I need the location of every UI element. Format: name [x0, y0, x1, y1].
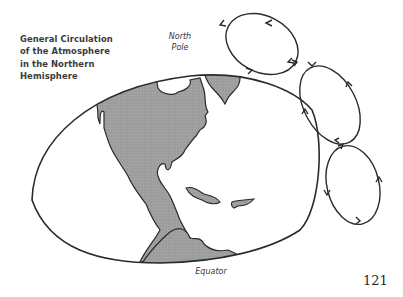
mid-latitude-cell-loop: [287, 56, 372, 155]
circulation-cells: [215, 1, 388, 230]
arctic-island: [172, 60, 190, 73]
polar-arrow-icon: [246, 68, 252, 74]
tropical-cell-loop: [318, 140, 388, 230]
land-masses: [92, 60, 254, 266]
circulation-diagram: [0, 0, 403, 297]
equator-label: Equator: [186, 266, 236, 277]
polar-arrow-icon: [266, 20, 272, 26]
page-number: 121: [363, 273, 388, 288]
hispaniola: [231, 199, 254, 208]
polar-arrow-icon: [220, 20, 226, 26]
tropical-arrow-icon: [356, 217, 360, 224]
cuba: [186, 187, 220, 203]
mid-cell-arrow-icon: [335, 138, 339, 143]
polar-cell-loop: [215, 1, 308, 86]
greenland: [203, 66, 240, 104]
mid-cell-arrow-icon: [308, 62, 316, 66]
north-america: [92, 72, 208, 262]
